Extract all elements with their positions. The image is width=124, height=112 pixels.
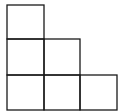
square-c0-r1 [7,39,44,75]
square-c0-r2 [7,75,44,110]
square-c1-r1 [44,39,80,75]
square-c1-r2 [44,75,80,110]
square-c2-r2 [80,75,117,110]
square-c0-r0 [7,5,44,39]
staircase-diagram [0,0,124,112]
